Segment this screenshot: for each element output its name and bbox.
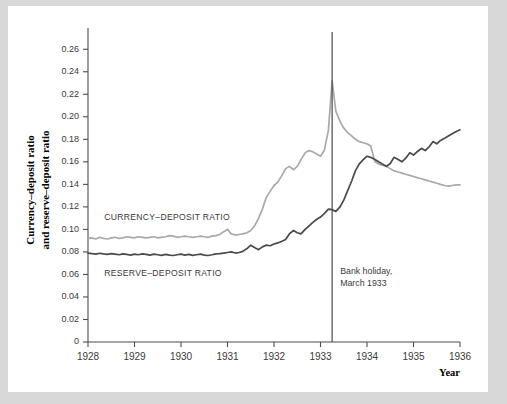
x-tick-label: 1936 xyxy=(449,351,472,362)
y-axis-title-line1: Currency–deposit ratio xyxy=(24,135,36,245)
y-axis-title-line2: and reserve–deposit ratio xyxy=(39,130,51,249)
x-tick-label: 1935 xyxy=(402,351,425,362)
y-tick-label: 0.04 xyxy=(61,291,79,301)
y-tick-label: 0.22 xyxy=(61,89,79,99)
x-tick-label: 1932 xyxy=(263,351,286,362)
bank-holiday-annotation-line2: March 1933 xyxy=(340,278,387,288)
reserve-deposit-series-label: RESERVE–DEPOSIT RATIO xyxy=(104,268,222,278)
y-tick-label: 0.10 xyxy=(61,224,79,234)
x-tick-label: 1931 xyxy=(216,351,239,362)
x-tick-label: 1930 xyxy=(170,351,193,362)
x-tick-label: 1934 xyxy=(356,351,379,362)
x-tick-label: 1929 xyxy=(123,351,146,362)
x-tick-label: 1928 xyxy=(77,351,100,362)
y-tick-label: 0.24 xyxy=(61,66,79,76)
y-tick-label: 0.16 xyxy=(61,156,79,166)
chart-figure: 00.020.040.060.080.100.120.140.160.180.2… xyxy=(8,6,488,392)
x-axis-title: Year xyxy=(439,367,460,378)
x-tick-label: 1933 xyxy=(309,351,332,362)
y-tick-label: 0.18 xyxy=(61,134,79,144)
y-tick-label: 0.26 xyxy=(61,44,79,54)
line-chart: 00.020.040.060.080.100.120.140.160.180.2… xyxy=(8,6,488,392)
y-tick-label: 0 xyxy=(74,336,79,346)
currency-deposit-series-label: CURRENCY–DEPOSIT RATIO xyxy=(104,212,230,222)
y-tick-label: 0.14 xyxy=(61,179,79,189)
y-tick-label: 0.20 xyxy=(61,111,79,121)
y-tick-label: 0.02 xyxy=(61,314,79,324)
figure-page: 00.020.040.060.080.100.120.140.160.180.2… xyxy=(8,6,488,392)
bank-holiday-annotation-line1: Bank holiday, xyxy=(340,266,392,276)
y-tick-label: 0.08 xyxy=(61,246,79,256)
y-tick-label: 0.12 xyxy=(61,201,79,211)
y-tick-label: 0.06 xyxy=(61,269,79,279)
